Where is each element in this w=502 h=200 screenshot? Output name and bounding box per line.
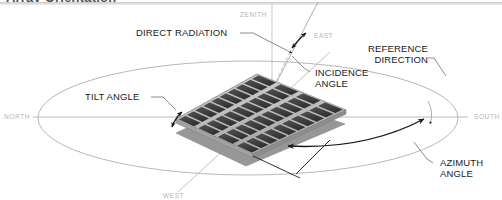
- direct-radiation-leader: [240, 33, 292, 53]
- label-south: SOUTH: [474, 112, 500, 123]
- label-incidence-angle-line2: ANGLE: [315, 79, 348, 90]
- label-azimuth-angle-line2: ANGLE: [440, 169, 473, 180]
- label-north: NORTH: [4, 112, 30, 123]
- reference-direction-drop: [428, 101, 432, 124]
- reference-direction-leader: [428, 58, 446, 76]
- label-reference-direction-line1: REFERENCE: [358, 44, 428, 55]
- reference-direction-line: [296, 140, 330, 174]
- label-tilt-angle: TILT ANGLE: [85, 92, 139, 103]
- label-direct-radiation: DIRECT RADIATION: [136, 28, 227, 39]
- tilt-angle-leader: [151, 97, 176, 110]
- label-incidence-angle-line1: INCIDENCE: [315, 68, 369, 79]
- array-orientation-diagram: [0, 0, 502, 200]
- label-zenith: ZENITH: [240, 10, 267, 21]
- incidence-angle-arrow: [292, 33, 306, 48]
- label-reference-direction-line2: DIRECTION: [358, 55, 428, 66]
- azimuth-angle-leader: [414, 142, 433, 163]
- label-east: EAST: [314, 31, 333, 42]
- incidence-angle-leader: [292, 56, 310, 72]
- label-west: WEST: [163, 191, 184, 200]
- figure-container: Array Orientation: [0, 0, 502, 200]
- label-azimuth-angle-line1: AZIMUTH: [440, 158, 483, 169]
